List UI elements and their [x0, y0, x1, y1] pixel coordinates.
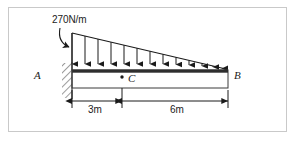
fixed-support — [62, 62, 72, 99]
dimension-label-cb: 6m — [170, 105, 184, 115]
point-c-marker — [120, 75, 123, 78]
beam — [72, 70, 228, 89]
point-label-a: A — [34, 70, 41, 81]
beam-diagram — [0, 0, 297, 141]
figure-canvas: 270N/m A C B 3m 6m — [0, 0, 297, 141]
load-leader-arrow — [59, 28, 69, 47]
load-magnitude-label: 270N/m — [52, 15, 86, 25]
point-label-c: C — [128, 73, 135, 84]
point-label-b: B — [234, 70, 241, 81]
dimension-label-ac: 3m — [88, 105, 102, 115]
